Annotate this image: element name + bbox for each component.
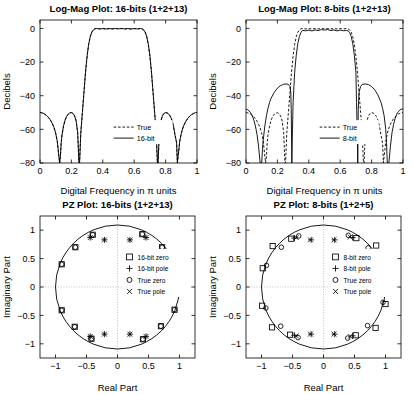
y-tick-label: −40 (226, 91, 241, 101)
marker-circle (73, 245, 78, 250)
y-tick-label: 0 (30, 282, 35, 292)
marker-circle (159, 324, 164, 329)
plot-legend: True16-bit (111, 120, 173, 144)
x-tick-label: 0.5 (142, 361, 155, 371)
figure-canvas: Log-Mag Plot: 16-bits (1+2+13)00.20.40.6… (0, 0, 413, 394)
marker-square (373, 325, 378, 330)
x-tick-label: 1 (400, 166, 405, 176)
legend-label: 16-bit zero (138, 254, 169, 261)
marker-circle (72, 324, 77, 329)
x-tick-label: 0.2 (271, 166, 284, 176)
panel-logmag-8bit: Log-Mag Plot: 8-bits (1+2+13)00.20.40.60… (206, 0, 413, 197)
x-tick-label: 0.2 (65, 166, 78, 176)
marker-plus (332, 331, 338, 337)
y-tick-label: 0 (30, 24, 35, 34)
plot-legend: True8-bit (317, 120, 379, 144)
marker-circle (296, 234, 301, 239)
x-tick-label: 1 (383, 361, 388, 371)
x-tick-label: −0.5 (78, 361, 96, 371)
plot-logmag-8bit: Log-Mag Plot: 8-bits (1+2+13)00.20.40.60… (206, 0, 413, 197)
marker-cross (348, 235, 353, 240)
x-tick-label: 1 (177, 361, 182, 371)
marker-circle (365, 323, 370, 328)
legend-label: True (137, 123, 152, 132)
x-axis-label: Real Part (98, 382, 138, 393)
x-tick-label: 0.6 (334, 166, 347, 176)
marker-circle (279, 245, 284, 250)
x-tick-label: 0.8 (159, 166, 172, 176)
x-tick-label: −1 (256, 361, 266, 371)
y-tick-label: 0.5 (228, 254, 241, 264)
plot-legend: 16-bit zero16-bit poleTrue zeroTrue pole (124, 249, 190, 297)
x-tick-label: 0 (321, 361, 326, 371)
y-axis-label: Imaginary Part (1, 256, 12, 318)
marker-plus (308, 237, 314, 243)
y-tick-label: −60 (226, 125, 241, 135)
y-axis-label: Imaginary Part (207, 256, 218, 318)
legend-label: 8-bit zero (344, 254, 372, 261)
y-tick-label: −80 (226, 158, 241, 168)
x-tick-label: 0 (115, 361, 120, 371)
x-tick-label: 0 (243, 166, 248, 176)
marker-square (287, 332, 292, 337)
plot-pz-16bit: PZ Plot: 16-bits (1+2+13)−1−0.500.51−1−0… (0, 196, 207, 394)
marker-square (353, 333, 358, 338)
y-tick-label: 0.5 (22, 254, 35, 264)
legend-label: 16-bit pole (138, 265, 169, 273)
marker-plus (332, 237, 338, 243)
plot-logmag-16bit: Log-Mag Plot: 16-bits (1+2+13)00.20.40.6… (0, 0, 207, 197)
legend-label: True pole (344, 288, 372, 296)
y-tick-label: −40 (20, 91, 35, 101)
y-tick-label: −80 (20, 158, 35, 168)
legend-label: True (343, 123, 358, 132)
plot-title: Log-Mag Plot: 8-bits (1+2+13) (258, 3, 391, 14)
y-tick-label: −20 (226, 57, 241, 67)
x-tick-label: −1 (50, 361, 60, 371)
legend-label: 16-bit (137, 134, 155, 143)
x-tick-label: 0.5 (348, 361, 361, 371)
x-tick-label: −0.5 (284, 361, 302, 371)
legend-label: True zero (344, 277, 372, 284)
y-tick-label: 0 (236, 24, 241, 34)
y-tick-label: 1 (30, 225, 35, 235)
plot-legend: 8-bit zero8-bit poleTrue zeroTrue pole (330, 249, 396, 297)
y-axis-label: Decibels (207, 73, 218, 110)
y-tick-label: −20 (20, 57, 35, 67)
marker-square (354, 236, 359, 241)
panel-pz-16bit: PZ Plot: 16-bits (1+2+13)−1−0.500.51−1−0… (0, 196, 207, 394)
y-tick-label: −0.5 (17, 311, 35, 321)
marker-circle (345, 336, 350, 341)
legend-label: 8-bit (343, 134, 357, 143)
x-axis-label: Digital Frequency in π units (61, 185, 177, 196)
marker-plus (308, 331, 314, 337)
marker-square (270, 244, 275, 249)
y-tick-label: 1 (236, 225, 241, 235)
marker-square (289, 236, 294, 241)
plot-title: PZ Plot: 16-bits (1+2+13) (62, 199, 172, 210)
marker-square (374, 243, 379, 248)
x-axis-label: Real Part (304, 382, 344, 393)
plot-title: Log-Mag Plot: 16-bits (1+2+13) (50, 3, 188, 14)
legend-label: 8-bit pole (344, 265, 371, 273)
x-tick-label: 0.8 (365, 166, 378, 176)
x-tick-label: 0.4 (303, 166, 316, 176)
x-axis-label: Digital Frequency in π units (267, 185, 383, 196)
panel-pz-8bit: PZ Plot: 8-bits (1+2+5)−1−0.500.51−1−0.5… (206, 196, 413, 394)
y-tick-label: −0.5 (223, 311, 241, 321)
y-axis-label: Decibels (1, 73, 12, 110)
legend-label: True pole (138, 288, 166, 296)
x-tick-label: 1 (194, 166, 199, 176)
y-tick-label: −1 (231, 339, 241, 349)
plot-title: PZ Plot: 8-bits (1+2+5) (274, 199, 374, 210)
marker-circle (278, 324, 283, 329)
marker-square (269, 325, 274, 330)
legend-label: True zero (138, 277, 166, 284)
y-tick-label: 0 (236, 282, 241, 292)
y-tick-label: −60 (20, 125, 35, 135)
x-tick-label: 0 (37, 166, 42, 176)
x-tick-label: 0.6 (128, 166, 141, 176)
marker-circle (160, 245, 165, 250)
plot-pz-8bit: PZ Plot: 8-bits (1+2+5)−1−0.500.51−1−0.5… (206, 196, 413, 394)
panel-logmag-16bit: Log-Mag Plot: 16-bits (1+2+13)00.20.40.6… (0, 0, 207, 197)
x-tick-label: 0.4 (97, 166, 110, 176)
